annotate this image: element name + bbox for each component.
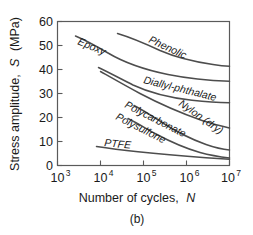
x-tick-label-1e6: 10 6 (180, 168, 200, 185)
x-axis-title-symbol: N (186, 191, 196, 205)
y-tick-label-20: 20 (39, 111, 53, 125)
x-tick-base-1e7: 10 (221, 171, 235, 185)
y-axis-title-units: (MPa) (8, 17, 22, 51)
y-tick-label-30: 30 (39, 87, 53, 101)
y-axis-ticks (58, 22, 63, 166)
y-axis-title-symbol: S (8, 58, 22, 67)
x-axis-title-text: Number of cycles, (79, 191, 179, 205)
y-axis-title-text: Stress amplitude, (8, 74, 22, 171)
x-axis-ticks (58, 161, 230, 166)
svg-text:Number of cycles, N: Number of cycles, N (79, 191, 197, 205)
x-tick-base-1e4: 10 (94, 171, 108, 185)
x-axis-tick-labels: 10 3 10 4 10 5 10 6 10 7 (51, 168, 242, 185)
svg-text:Stress amplitude, S: Stress amplitude, S (MPa) (8, 17, 22, 171)
y-tick-label-50: 50 (39, 39, 53, 53)
x-tick-base-1e3: 10 (51, 171, 65, 185)
y-tick-label-10: 10 (39, 135, 53, 149)
figure-container: 60 50 40 30 20 10 0 10 3 10 4 (0, 0, 253, 235)
x-tick-exp-1e4: 4 (109, 168, 114, 178)
x-tick-label-1e4: 10 4 (94, 168, 114, 185)
x-axis-title: Number of cycles, N (79, 191, 197, 205)
caption-text: (b) (130, 212, 145, 226)
y-tick-label-60: 60 (39, 15, 53, 29)
x-tick-exp-1e5: 5 (152, 168, 157, 178)
y-tick-label-40: 40 (39, 63, 53, 77)
x-tick-exp-1e3: 3 (66, 168, 71, 178)
curve-label-epoxy: Epoxy (76, 35, 108, 58)
x-tick-label-1e5: 10 5 (137, 168, 157, 185)
y-axis-tick-labels: 60 50 40 30 20 10 0 (39, 15, 53, 173)
x-tick-base-1e5: 10 (137, 171, 151, 185)
x-tick-label-1e7: 10 7 (221, 168, 241, 185)
x-tick-base-1e6: 10 (180, 171, 194, 185)
x-tick-exp-1e7: 7 (236, 168, 241, 178)
x-tick-exp-1e6: 6 (195, 168, 200, 178)
fatigue-sn-chart: 60 50 40 30 20 10 0 10 3 10 4 (0, 0, 253, 235)
x-tick-label-1e3: 10 3 (51, 168, 71, 185)
figure-caption: (b) (130, 212, 145, 226)
y-axis-title: Stress amplitude, S (MPa) (8, 17, 22, 171)
